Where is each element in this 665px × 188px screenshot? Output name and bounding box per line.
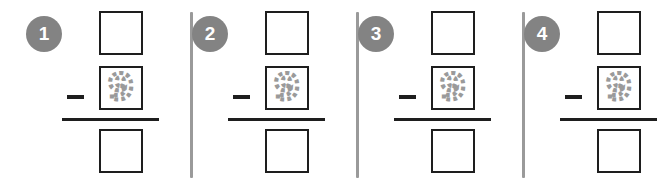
minuend-box-1[interactable] <box>99 11 143 55</box>
problem-body-2: 9 <box>166 0 332 188</box>
difference-box-1[interactable] <box>99 129 143 173</box>
trace-digit-text-4: 9 <box>606 68 631 108</box>
trace-digit-text-2: 9 <box>274 68 299 108</box>
subtrahend-box-4[interactable]: 9 <box>597 66 641 110</box>
answer-rule-1 <box>62 118 159 121</box>
difference-box-3[interactable] <box>431 129 475 173</box>
difference-box-2[interactable] <box>265 129 309 173</box>
problem-body-3: 9 <box>332 0 498 188</box>
dashed-digit-9-icon-3: 9 <box>433 68 473 108</box>
minus-sign-2 <box>233 95 250 99</box>
answer-rule-3 <box>394 118 491 121</box>
problem-body-1: 9 <box>0 0 166 188</box>
problem-body-4: 9 <box>498 0 664 188</box>
dashed-digit-9-icon-1: 9 <box>101 68 141 108</box>
difference-box-4[interactable] <box>597 129 641 173</box>
minuend-box-2[interactable] <box>265 11 309 55</box>
answer-rule-2 <box>228 118 325 121</box>
problem-panel-1: 1 9 <box>0 0 166 188</box>
answer-rule-4 <box>560 118 657 121</box>
minus-sign-3 <box>399 95 416 99</box>
subtrahend-box-3[interactable]: 9 <box>431 66 475 110</box>
subtrahend-box-2[interactable]: 9 <box>265 66 309 110</box>
problem-panel-2: 2 9 <box>166 0 332 188</box>
minus-sign-1 <box>67 95 84 99</box>
trace-digit-text-3: 9 <box>440 68 465 108</box>
dashed-digit-9-icon-2: 9 <box>267 68 307 108</box>
subtrahend-box-1[interactable]: 9 <box>99 66 143 110</box>
minus-sign-4 <box>565 95 582 99</box>
dashed-digit-9-icon-4: 9 <box>599 68 639 108</box>
minuend-box-3[interactable] <box>431 11 475 55</box>
minuend-box-4[interactable] <box>597 11 641 55</box>
worksheet-canvas: 1 9 2 9 <box>0 0 665 188</box>
problem-panel-3: 3 9 <box>332 0 498 188</box>
problem-panel-4: 4 9 <box>498 0 664 188</box>
trace-digit-text-1: 9 <box>108 68 133 108</box>
